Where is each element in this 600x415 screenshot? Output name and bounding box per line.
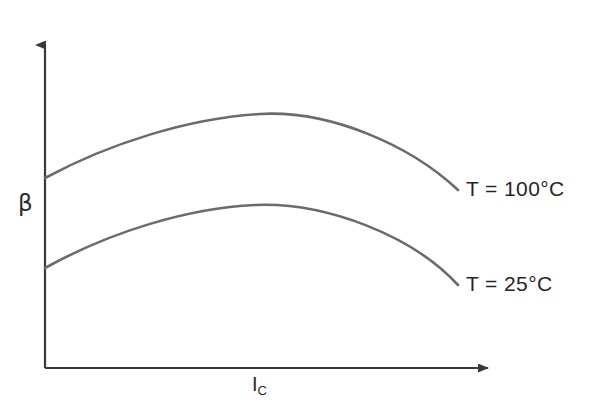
curve-t-25c bbox=[45, 205, 458, 285]
y-axis-label: β bbox=[18, 192, 33, 215]
curve-label-t-100c: T = 100°C bbox=[466, 178, 565, 199]
chart-plot-area bbox=[0, 0, 600, 415]
x-axis-label: IC bbox=[252, 374, 267, 394]
x-axis-label-main: I bbox=[252, 373, 258, 395]
x-axis-label-subscript: C bbox=[258, 383, 267, 398]
curve-t-100c bbox=[45, 114, 458, 190]
curve-label-t-25c: T = 25°C bbox=[466, 273, 553, 294]
beta-vs-collector-current-chart: β IC T = 100°C T = 25°C bbox=[0, 0, 600, 415]
